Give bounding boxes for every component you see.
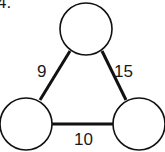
edge-weight-left-right: 10 xyxy=(74,130,93,149)
node-right xyxy=(113,98,165,150)
edge-weight-top-left: 9 xyxy=(37,62,46,81)
weighted-graph-diagram: 9 15 10 xyxy=(0,0,165,152)
edge-weight-top-right: 15 xyxy=(114,62,133,81)
node-top xyxy=(60,3,112,55)
node-left xyxy=(0,98,52,150)
